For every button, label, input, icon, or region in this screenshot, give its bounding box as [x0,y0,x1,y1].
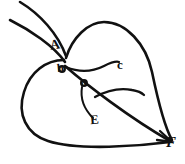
point-label-c: c [117,58,123,71]
leaf-diagram-figure: A b c o E F [0,0,185,164]
lateral-vein-to-c [66,62,119,71]
point-label-a: A [49,37,61,52]
point-label-b: b [56,62,64,75]
point-label-e: E [89,113,99,127]
point-label-f: F [166,135,176,150]
leaf-drawing-canvas [0,0,185,164]
leaf-outline-left-lobe [22,60,170,147]
